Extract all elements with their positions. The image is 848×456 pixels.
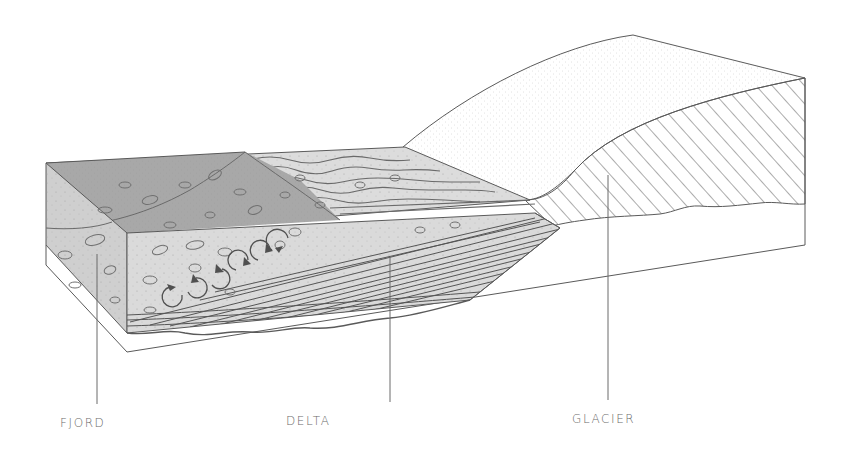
fjord-label: FJORD [60, 416, 105, 430]
glacier-block [403, 35, 805, 245]
glacier-label: GLACIER [572, 412, 635, 426]
delta-label: DELTA [286, 414, 330, 428]
fjord-delta-glacier-diagram [0, 0, 848, 456]
